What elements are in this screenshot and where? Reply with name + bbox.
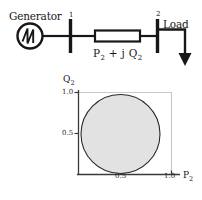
power-flow-label: P2 + j Q2	[93, 48, 142, 62]
x-tick-label-0.5: 0.5	[115, 173, 126, 180]
x-axis-title-subscript: 2	[189, 175, 193, 183]
load-label: Load	[163, 19, 188, 30]
power-q-subscript: 2	[138, 54, 143, 62]
y-tick-label-1.0: 1.0	[62, 89, 73, 96]
power-q-symbol: Q	[129, 47, 138, 59]
pq-region-chart: Q2 P2 1.0 0.5 0.5 1.0	[0, 72, 202, 200]
figure-root: Generator 1 2 Load P2 + j Q2 Q2 P2	[0, 0, 202, 200]
power-plus-j: + j	[105, 47, 129, 59]
load-arrow-icon	[158, 30, 192, 67]
bus1-label: 1	[69, 12, 73, 19]
x-tick-label-1.0: 1.0	[164, 173, 175, 180]
ac-source-icon	[18, 24, 43, 49]
feasible-region-circle	[81, 95, 160, 174]
generator-label: Generator	[9, 11, 62, 22]
single-line-diagram: Generator 1 2 Load P2 + j Q2	[0, 0, 202, 72]
y-axis-title-subscript: 2	[70, 79, 74, 87]
transmission-line-icon	[95, 31, 140, 42]
bus2-label: 2	[156, 11, 160, 18]
y-tick-label-0.5: 0.5	[62, 130, 73, 137]
chart-canvas	[0, 72, 202, 200]
x-axis-title: P2	[183, 171, 193, 182]
y-axis-title: Q2	[63, 75, 75, 86]
